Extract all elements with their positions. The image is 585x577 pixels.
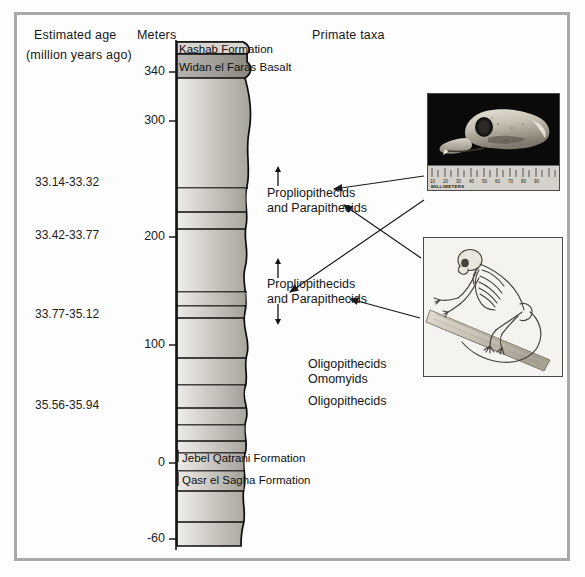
svg-text:70: 70 <box>508 179 514 184</box>
skull-image <box>428 94 559 168</box>
ruler-caption: MILLIMETERS <box>431 184 465 189</box>
taxa-label-2: Propliopithecidsand Parapithecids <box>267 277 367 306</box>
fossil-skull-photograph: 102030 405060 708090 MILLIMETERS <box>427 93 560 191</box>
svg-text:60: 60 <box>495 179 501 184</box>
primate-skeleton-drawing <box>423 237 563 377</box>
skeleton-illustration <box>424 238 562 376</box>
axis-tick-label-minus60: -60 <box>125 531 165 545</box>
age-label-1: 33.14-33.32 <box>35 175 99 189</box>
skull-photo-area <box>428 94 559 168</box>
age-label-4: 35.56-35.94 <box>35 398 99 412</box>
axis-tick-label-100: 100 <box>125 337 165 351</box>
formation-label-kashab: Kashab Formation <box>179 43 273 55</box>
taxa-label-4: Oligopithecids <box>308 394 387 409</box>
formation-label-jebel-qatrani: Jebel Qatrani Formation <box>182 452 305 464</box>
age-column-header-line2: (million years ago) <box>26 48 132 62</box>
taxa-label-1: Propliopithecidsand Parapithecids <box>267 186 367 215</box>
taxa-label-1-line1: Propliopithecids <box>267 186 355 200</box>
axis-tick-label-0: 0 <box>125 455 165 469</box>
axis-tick-label-300: 300 <box>125 113 165 127</box>
age-label-3: 33.77-35.12 <box>35 307 99 321</box>
svg-text:50: 50 <box>482 179 488 184</box>
stratigraphic-column-figure: Estimated age (million years ago) Meters… <box>0 0 585 577</box>
formation-label-widan-el-faras: Widan el Faras Basalt <box>179 61 292 73</box>
age-label-2: 33.42-33.77 <box>35 228 99 242</box>
axis-tick-label-340: 340 <box>125 64 165 78</box>
taxa-label-2-line1: Propliopithecids <box>267 277 355 291</box>
taxa-label-3-line2: Omomyids <box>308 372 368 386</box>
range-arrow-down-2 <box>272 304 284 326</box>
axis-tick-label-200: 200 <box>125 229 165 243</box>
range-arrow-up-1 <box>272 166 284 188</box>
svg-text:40: 40 <box>469 179 475 184</box>
millimeter-ruler: 102030 405060 708090 MILLIMETERS <box>428 165 559 190</box>
svg-text:80: 80 <box>521 179 527 184</box>
taxa-label-1-line2: and Parapithecids <box>267 201 367 215</box>
age-column-header-line1: Estimated age <box>34 28 117 42</box>
svg-text:90: 90 <box>534 179 540 184</box>
primate-taxa-header: Primate taxa <box>312 28 385 42</box>
formation-label-qasr-el-sagha: Qasr el Sagha Formation <box>182 474 310 486</box>
taxa-label-3: OligopithecidsOmomyids <box>308 357 387 386</box>
taxa-label-3-line1: Oligopithecids <box>308 357 387 371</box>
